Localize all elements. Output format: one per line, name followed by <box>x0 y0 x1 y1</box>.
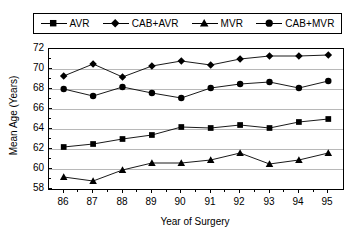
series-avr <box>61 116 331 150</box>
chart-figure: AVRCAB+AVRMVRCAB+MVR 5860626466687072 Ye… <box>0 0 355 239</box>
data-point <box>236 55 244 63</box>
x-axis-tick-label: 89 <box>136 196 166 207</box>
y-axis-tick-mark <box>48 128 52 129</box>
y-axis-tick-label: 60 <box>18 163 44 173</box>
plot-area <box>48 48 344 190</box>
y-axis-tick-labels: 5860626466687072 <box>14 0 44 239</box>
x-axis-tick-label: 88 <box>107 196 137 207</box>
x-axis-tick-mark <box>122 189 123 193</box>
legend-entry-mvr[interactable]: MVR <box>192 18 244 29</box>
data-point <box>119 84 125 90</box>
series-line <box>64 153 329 181</box>
x-axis-tick-label: 95 <box>312 196 342 207</box>
legend-marker-triangle-icon <box>192 18 218 29</box>
data-point <box>208 125 214 131</box>
y-axis-minor-tick <box>48 178 51 179</box>
x-axis-tick-mark <box>210 189 211 193</box>
y-axis-tick-label: 70 <box>18 63 44 73</box>
data-point <box>119 73 127 81</box>
y-axis-title: Mean Age (Years) <box>8 41 19 191</box>
x-axis-minor-tick <box>195 189 196 192</box>
x-axis-minor-tick <box>313 189 314 192</box>
y-axis-tick-label: 66 <box>18 103 44 113</box>
x-axis-tick-mark <box>180 189 181 193</box>
data-point <box>266 79 272 85</box>
legend-marker-diamond-icon <box>103 18 129 29</box>
chart-legend: AVRCAB+AVRMVRCAB+MVR <box>33 13 342 34</box>
x-axis-minor-tick <box>136 189 137 192</box>
legend-label: CAB+AVR <box>132 18 179 29</box>
data-point <box>61 144 67 150</box>
y-axis-minor-tick <box>48 78 51 79</box>
legend-entry-cab-mvr[interactable]: CAB+MVR <box>256 18 334 29</box>
data-point <box>207 85 213 91</box>
series-cab-avr <box>60 51 332 81</box>
x-axis-minor-tick <box>77 189 78 192</box>
series-cab-mvr <box>60 78 331 101</box>
plot-inner <box>49 49 343 189</box>
y-axis-minor-tick <box>48 158 51 159</box>
legend-marker-square-icon <box>41 18 67 29</box>
x-axis-tick-label: 91 <box>195 196 225 207</box>
x-axis-tick-label: 87 <box>77 196 107 207</box>
x-axis-title: Year of Surgery <box>48 216 342 227</box>
data-point <box>325 149 333 156</box>
legend-label: AVR <box>70 18 90 29</box>
data-point <box>148 62 156 70</box>
y-axis-tick-label: 72 <box>18 43 44 53</box>
data-point <box>325 51 333 59</box>
x-axis-tick-label: 94 <box>283 196 313 207</box>
y-axis-minor-tick <box>48 98 51 99</box>
legend-entry-cab-avr[interactable]: CAB+AVR <box>103 18 179 29</box>
y-axis-minor-tick <box>48 58 51 59</box>
y-axis-tick-mark <box>48 188 52 189</box>
x-axis-minor-tick <box>283 189 284 192</box>
data-point <box>296 85 302 91</box>
legend-label: CAB+MVR <box>285 18 334 29</box>
x-axis-tick-mark <box>63 189 64 193</box>
y-axis-tick-label: 58 <box>18 183 44 193</box>
data-point <box>149 90 155 96</box>
data-point <box>149 132 155 138</box>
y-axis-tick-mark <box>48 148 52 149</box>
series-line <box>64 119 329 147</box>
x-axis-minor-tick <box>107 189 108 192</box>
x-axis-tick-mark <box>151 189 152 193</box>
data-point <box>178 124 184 130</box>
data-point <box>178 57 186 65</box>
x-axis-tick-label: 92 <box>224 196 254 207</box>
data-point <box>237 81 243 87</box>
x-axis-minor-tick <box>254 189 255 192</box>
x-axis-tick-label: 93 <box>254 196 284 207</box>
data-point <box>60 173 68 180</box>
x-axis-minor-tick <box>224 189 225 192</box>
legend-marker-circle-icon <box>256 18 282 29</box>
y-axis-tick-mark <box>48 48 52 49</box>
legend-entry-avr[interactable]: AVR <box>41 18 90 29</box>
x-axis-tick-mark <box>298 189 299 193</box>
series-line <box>64 55 329 77</box>
y-axis-tick-mark <box>48 108 52 109</box>
series-line <box>64 81 329 98</box>
x-axis-minor-tick <box>166 189 167 192</box>
data-point <box>90 93 96 99</box>
data-point <box>120 136 126 142</box>
y-axis-minor-tick <box>48 118 51 119</box>
data-point <box>207 61 215 69</box>
data-point <box>60 72 68 80</box>
data-point <box>325 78 331 84</box>
x-axis-tick-mark <box>239 189 240 193</box>
data-point <box>89 60 97 68</box>
data-point <box>90 141 96 147</box>
y-axis-minor-tick <box>48 138 51 139</box>
data-point <box>296 119 302 125</box>
data-point <box>237 122 243 128</box>
y-axis-tick-mark <box>48 68 52 69</box>
data-point <box>236 149 244 156</box>
legend-label: MVR <box>221 18 244 29</box>
data-point <box>267 125 273 131</box>
series-layer <box>49 49 343 189</box>
x-axis-tick-mark <box>92 189 93 193</box>
x-axis-tick-mark <box>327 189 328 193</box>
x-axis-tick-label: 90 <box>165 196 195 207</box>
